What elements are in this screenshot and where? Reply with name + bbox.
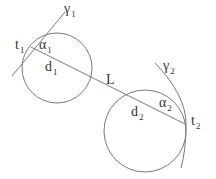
label-d1: d1 <box>45 60 58 74</box>
label-L: L <box>106 73 115 87</box>
label-t2: t2 <box>191 114 200 128</box>
label-gamma2: γ2 <box>163 59 175 73</box>
circle-2 <box>104 90 186 172</box>
label-d2: d2 <box>131 105 144 119</box>
diagram-canvas <box>0 0 216 179</box>
label-alpha1: α1 <box>39 38 52 52</box>
curve-gamma2 <box>155 63 186 168</box>
label-alpha2: α2 <box>159 96 172 110</box>
label-gamma1: γ1 <box>64 2 76 16</box>
label-t1: t1 <box>15 38 24 52</box>
